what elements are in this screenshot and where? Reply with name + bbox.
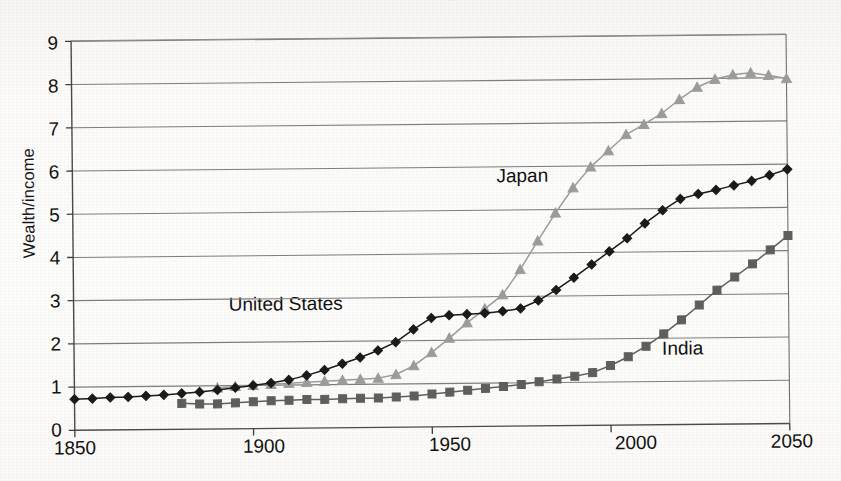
- scanned-page: and the United States, 1870–2100 Wealth/…: [0, 0, 841, 481]
- axis-lines: [71, 34, 790, 430]
- figure: and the United States, 1870–2100 Wealth/…: [0, 0, 841, 481]
- chart-plot-area: [0, 0, 841, 481]
- gridlines: [71, 34, 789, 387]
- axis-tick-marks: [65, 34, 790, 437]
- series-japan: [209, 67, 794, 392]
- series-united-states: [68, 165, 794, 404]
